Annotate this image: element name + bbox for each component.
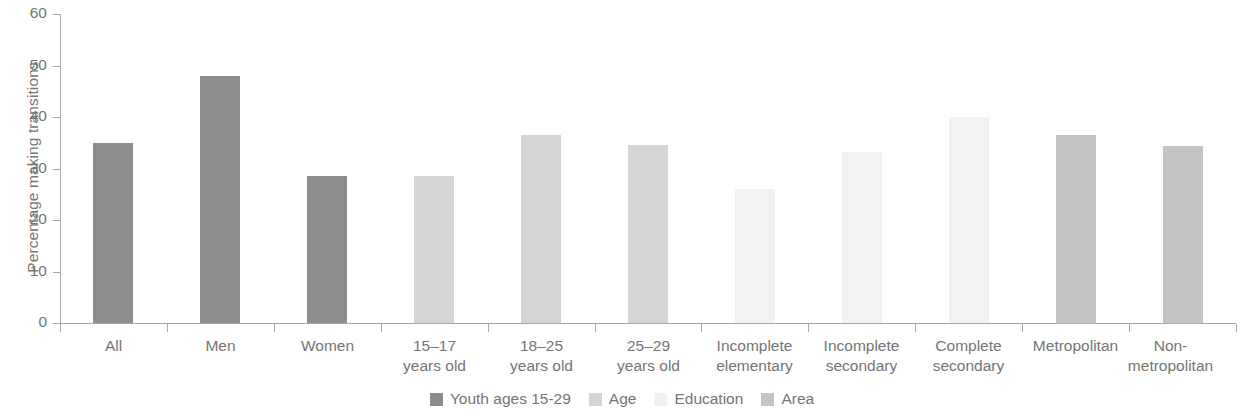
legend-label: Education	[674, 390, 743, 408]
x-tick-4	[488, 324, 489, 332]
legend-label: Youth ages 15-29	[450, 390, 571, 408]
legend-label: Area	[781, 390, 814, 408]
x-category-label-line2: secondary	[903, 356, 1034, 376]
bar	[93, 143, 133, 323]
x-tick-2	[274, 324, 275, 332]
bar	[1163, 146, 1203, 323]
x-category-label: Non-metropolitan	[1105, 336, 1236, 376]
plot-area	[60, 14, 1236, 323]
legend-label: Age	[609, 390, 637, 408]
x-axis-line	[60, 323, 1236, 324]
y-tick-40	[53, 117, 60, 118]
y-tick-0	[53, 323, 60, 324]
legend-swatch-area	[761, 393, 774, 406]
bar	[735, 189, 775, 323]
x-category-label-line1: Non-	[1105, 336, 1236, 356]
legend-swatch-age	[589, 393, 602, 406]
y-tick-20	[53, 220, 60, 221]
y-tick-label-0: 0	[0, 313, 47, 331]
x-tick-8	[915, 324, 916, 332]
legend-item[interactable]: Age	[589, 390, 637, 408]
y-tick-10	[53, 272, 60, 273]
bar	[842, 152, 882, 323]
x-tick-9	[1022, 324, 1023, 332]
x-category-label-line2: metropolitan	[1105, 356, 1236, 376]
bar-chart: Percentage making transitions 0102030405…	[0, 0, 1244, 417]
y-tick-label-40: 40	[0, 107, 47, 125]
y-tick-50	[53, 66, 60, 67]
x-tick-7	[808, 324, 809, 332]
y-axis-line	[60, 14, 61, 324]
bar	[1056, 135, 1096, 323]
x-tick-1	[167, 324, 168, 332]
y-tick-label-50: 50	[0, 56, 47, 74]
x-tick-5	[595, 324, 596, 332]
legend-item[interactable]: Education	[654, 390, 743, 408]
legend-item[interactable]: Area	[761, 390, 814, 408]
y-tick-label-10: 10	[0, 262, 47, 280]
x-tick-6	[701, 324, 702, 332]
chart-legend: Youth ages 15-29AgeEducationArea	[0, 390, 1244, 408]
bar	[628, 145, 668, 323]
bar	[521, 135, 561, 323]
x-tick-11	[1236, 324, 1237, 332]
bar	[307, 176, 347, 323]
x-tick-3	[381, 324, 382, 332]
legend-swatch-youth	[430, 393, 443, 406]
y-tick-30	[53, 169, 60, 170]
x-tick-0	[60, 324, 61, 332]
y-tick-label-30: 30	[0, 159, 47, 177]
x-tick-10	[1129, 324, 1130, 332]
legend-item[interactable]: Youth ages 15-29	[430, 390, 571, 408]
y-tick-label-20: 20	[0, 210, 47, 228]
y-tick-label-60: 60	[0, 4, 47, 22]
y-tick-60	[53, 14, 60, 15]
legend-swatch-education	[654, 393, 667, 406]
bar	[200, 76, 240, 323]
bar	[414, 176, 454, 323]
bar	[949, 117, 989, 323]
